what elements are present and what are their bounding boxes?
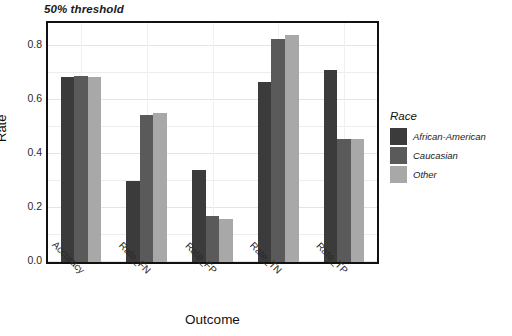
legend-item[interactable]: Other <box>390 166 510 183</box>
legend-label: African-American <box>413 131 486 142</box>
y-axis-title: Rate <box>0 115 9 142</box>
y-tick-label: 0.2 <box>2 200 42 212</box>
legend-swatch <box>390 166 407 183</box>
x-tick-label: Rate_TP <box>314 240 350 276</box>
legend-swatch <box>390 147 407 164</box>
x-tick-label: Rate_FN <box>117 240 153 276</box>
x-axis: AccuracyRate_FNRate_FPRate_TNRate_TP <box>46 0 375 336</box>
legend-item[interactable]: Caucasian <box>390 147 510 164</box>
x-axis-title: Outcome <box>46 312 379 327</box>
legend-entries: African-AmericanCaucasianOther <box>390 128 510 183</box>
legend-swatch <box>390 128 407 145</box>
legend-label: Other <box>413 169 437 180</box>
y-tick-label: 0.8 <box>2 38 42 50</box>
x-tick-label: Rate_FP <box>183 240 219 276</box>
y-tick-label: 0.0 <box>2 254 42 266</box>
x-tick-label: Accuracy <box>50 239 87 276</box>
legend-title: Race <box>390 110 510 122</box>
y-tick-label: 0.4 <box>2 146 42 158</box>
legend-label: Caucasian <box>413 150 458 161</box>
chart-figure: 50% threshold 0.00.20.40.60.8 Rate Accur… <box>0 0 512 336</box>
y-tick-label: 0.6 <box>2 92 42 104</box>
x-tick-label: Rate_TN <box>248 240 284 276</box>
legend-item[interactable]: African-American <box>390 128 510 145</box>
legend: Race African-AmericanCaucasianOther <box>390 110 510 185</box>
